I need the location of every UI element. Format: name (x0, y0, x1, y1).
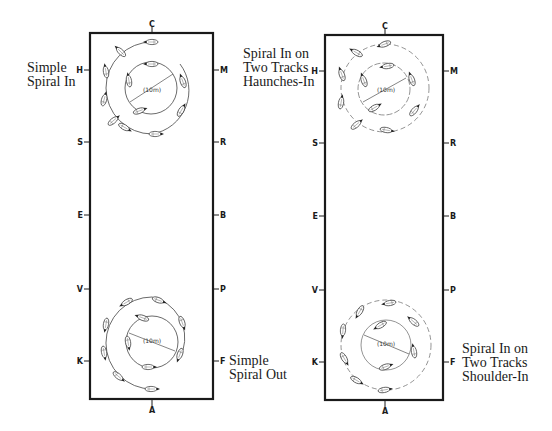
caption-spiral-in-haunches-in: Spiral In on Two Tracks Haunches-In (243, 47, 315, 89)
caption-line: Shoulder-In (462, 370, 529, 384)
caption-line: Two Tracks (462, 356, 529, 370)
caption-line: Spiral Out (229, 368, 287, 382)
letter-v: V (312, 286, 319, 295)
spiral-path-connector (152, 64, 189, 134)
caption-line: Simple (229, 354, 287, 368)
letter-f: F (450, 358, 455, 367)
letter-a: A (382, 407, 389, 416)
letter-k: K (312, 358, 319, 367)
figure-simple-spiral-out: (10m) (100, 296, 187, 392)
letter-a: A (149, 406, 156, 415)
caption-line: Spiral In on (243, 47, 315, 61)
letter-c: C (149, 20, 155, 29)
caption-line: Spiral In (27, 75, 76, 89)
letter-e: E (78, 211, 83, 220)
letter-b: B (220, 211, 226, 220)
arena-letter-ticks (319, 28, 449, 407)
figure-simple-spiral-in: (10m) (100, 39, 189, 136)
letter-m: M (450, 67, 458, 76)
letter-p: P (450, 286, 456, 295)
caption-spiral-in-shoulder-in: Spiral In on Two Tracks Shoulder-In (462, 342, 529, 384)
letter-k: K (77, 357, 84, 366)
letter-s: S (77, 138, 83, 147)
left-arena: C A H S E V K M R B P F (10m) (76, 20, 228, 415)
letter-v: V (77, 285, 84, 294)
letter-m: M (220, 66, 228, 75)
radius-label: (10m) (377, 86, 395, 93)
caption-line: Spiral In on (462, 342, 529, 356)
letter-c: C (382, 22, 388, 31)
right-arena: C A H S E V K M R B P F (10m) (311, 22, 458, 416)
caption-simple-spiral-in: Simple Spiral In (27, 61, 76, 89)
figure-spiral-in-haunches-in: (10m) (336, 40, 429, 135)
letter-h: H (76, 66, 83, 75)
figure-spiral-in-shoulder-in: (10m) (339, 299, 431, 393)
letter-r: R (220, 138, 226, 147)
caption-simple-spiral-out: Simple Spiral Out (229, 354, 287, 382)
letter-b: B (450, 212, 456, 221)
radius-label: (10m) (143, 337, 161, 344)
caption-line: Simple (27, 61, 76, 75)
letter-e: E (313, 212, 318, 221)
caption-line: Haunches-In (243, 75, 315, 89)
radius-label: (10m) (143, 86, 161, 93)
letter-s: S (312, 139, 318, 148)
radius-label: (10m) (377, 340, 395, 347)
caption-line: Two Tracks (243, 61, 315, 75)
letter-p: P (220, 285, 226, 294)
letter-r: R (450, 139, 456, 148)
letter-f: F (220, 357, 225, 366)
